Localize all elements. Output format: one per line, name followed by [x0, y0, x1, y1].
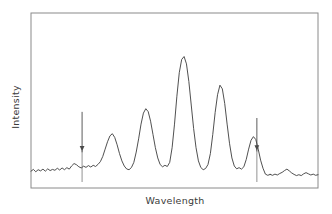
figure-background — [0, 0, 332, 214]
spectrum-figure: Intensity Wavelength — [0, 0, 332, 214]
x-axis-label: Wavelength — [146, 195, 205, 206]
plot-canvas — [0, 0, 332, 214]
y-axis-label: Intensity — [10, 85, 21, 129]
